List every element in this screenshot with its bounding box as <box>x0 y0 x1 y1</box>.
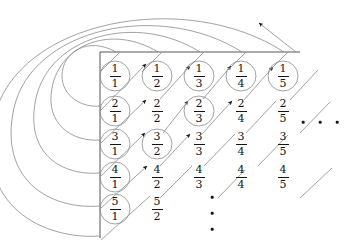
numerator: 2 <box>280 98 287 110</box>
fraction-cell: 2 3 <box>184 96 214 126</box>
numerator: 4 <box>280 164 287 176</box>
numerator: 4 <box>112 164 119 176</box>
denominator: 3 <box>196 145 203 157</box>
fraction-cell: 3 3 <box>184 129 214 159</box>
fraction-cell: 2 1 <box>100 96 130 126</box>
numerator: 1 <box>280 63 287 75</box>
denominator: 5 <box>280 77 287 89</box>
fraction-cell: 3 4 <box>226 129 256 159</box>
numerator: 5 <box>112 196 119 208</box>
denominator: 2 <box>154 210 161 222</box>
denominator: 3 <box>196 77 203 89</box>
fraction-cell: 3 1 <box>100 129 130 159</box>
numerator: 1 <box>196 63 203 75</box>
fraction-cell: 3 5 <box>268 129 298 159</box>
fraction-cell: 2 2 <box>142 96 172 126</box>
denominator: 3 <box>196 178 203 190</box>
diagonal-arrow-7c <box>300 102 330 133</box>
fraction-cell: 4 3 <box>184 162 214 192</box>
ellipsis-dot <box>336 121 339 124</box>
numerator: 1 <box>112 63 119 75</box>
numerator: 3 <box>196 131 203 143</box>
denominator: 2 <box>154 145 161 157</box>
ellipsis-dot <box>211 212 214 215</box>
fraction-cell: 1 2 <box>142 61 172 91</box>
denominator: 4 <box>238 178 245 190</box>
numerator: 2 <box>112 98 119 110</box>
denominator: 4 <box>238 77 245 89</box>
numerator: 4 <box>196 164 203 176</box>
fraction-cell: 2 4 <box>226 96 256 126</box>
numerator: 3 <box>154 131 161 143</box>
numerator: 1 <box>154 63 161 75</box>
ellipsis-dot <box>319 121 322 124</box>
numerator: 5 <box>154 196 161 208</box>
fraction-cell: 5 1 <box>100 194 130 224</box>
numerator: 4 <box>154 164 161 176</box>
diagram-lines <box>0 0 351 245</box>
fraction-cell: 3 2 <box>142 129 172 159</box>
numerator: 3 <box>112 131 119 143</box>
denominator: 1 <box>112 145 119 157</box>
numerator: 3 <box>280 131 287 143</box>
diagonal-arrow-8a <box>300 168 332 198</box>
ellipsis-dot <box>302 121 305 124</box>
numerator: 3 <box>238 131 245 143</box>
fraction-cell: 1 4 <box>226 61 256 91</box>
numerator: 2 <box>196 98 203 110</box>
fraction-cell: 1 5 <box>268 61 298 91</box>
fraction-cell: 4 4 <box>226 162 256 192</box>
ellipsis-dot <box>211 228 214 231</box>
fraction-cell: 1 1 <box>100 61 130 91</box>
fraction-cell: 4 2 <box>142 162 172 192</box>
fraction-cell: 5 2 <box>142 194 172 224</box>
numerator: 4 <box>238 164 245 176</box>
denominator: 2 <box>154 112 161 124</box>
ellipsis-dot <box>211 196 214 199</box>
fraction-cell: 1 3 <box>184 61 214 91</box>
numerator: 1 <box>238 63 245 75</box>
fraction-cell: 4 1 <box>100 162 130 192</box>
denominator: 1 <box>112 77 119 89</box>
fraction-cell: 4 5 <box>268 162 298 192</box>
numerator: 2 <box>238 98 245 110</box>
denominator: 2 <box>154 77 161 89</box>
fraction-cell: 2 5 <box>268 96 298 126</box>
denominator: 4 <box>238 145 245 157</box>
denominator: 5 <box>280 112 287 124</box>
denominator: 3 <box>196 112 203 124</box>
denominator: 4 <box>238 112 245 124</box>
figure-canvas: 1 1 1 2 1 3 1 4 1 5 2 1 2 2 2 3 2 4 <box>0 0 351 245</box>
denominator: 5 <box>280 178 287 190</box>
denominator: 5 <box>280 145 287 157</box>
denominator: 1 <box>112 112 119 124</box>
denominator: 1 <box>112 178 119 190</box>
denominator: 2 <box>154 178 161 190</box>
numerator: 2 <box>154 98 161 110</box>
denominator: 1 <box>112 210 119 222</box>
